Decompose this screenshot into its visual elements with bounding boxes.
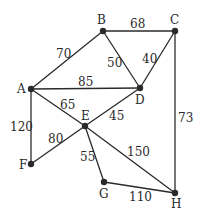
node-g: [101, 179, 107, 185]
node-labels: ABCDEFGH: [16, 13, 181, 211]
node-h: [172, 190, 178, 196]
edge-weight-c-d: 40: [142, 52, 157, 66]
node-e: [82, 123, 88, 129]
edge-weight-a-b: 70: [56, 47, 71, 61]
edge-weight-a-f: 120: [10, 120, 33, 134]
edge-weight-d-e: 45: [109, 109, 124, 123]
edge-weight-g-h: 110: [129, 190, 152, 204]
edge-e-h: [85, 126, 175, 193]
edge-weight-b-d: 50: [107, 56, 122, 70]
edge-a-e: [31, 89, 85, 126]
node-label-g: G: [99, 187, 109, 201]
node-label-d: D: [135, 93, 145, 107]
edge-weight-a-e: 65: [60, 98, 75, 112]
edge-weight-e-g: 55: [80, 150, 95, 164]
node-label-a: A: [16, 82, 26, 96]
node-c: [172, 28, 178, 34]
edge-weight-a-d: 85: [78, 75, 93, 89]
edge-weight-c-h: 73: [178, 111, 193, 125]
node-label-b: B: [97, 13, 106, 27]
edge-weight-e-h: 150: [127, 145, 150, 159]
node-label-f: F: [19, 158, 27, 172]
node-d: [137, 85, 143, 91]
node-b: [100, 28, 106, 34]
edge-weight-e-f: 80: [48, 132, 63, 146]
weighted-graph-diagram: 70685040856545120805515073110 ABCDEFGH: [0, 0, 206, 216]
node-label-h: H: [171, 197, 181, 211]
node-label-c: C: [170, 13, 179, 27]
node-a: [28, 86, 34, 92]
edge-weight-b-c: 68: [130, 17, 145, 31]
node-label-e: E: [81, 109, 90, 123]
node-f: [28, 161, 34, 167]
